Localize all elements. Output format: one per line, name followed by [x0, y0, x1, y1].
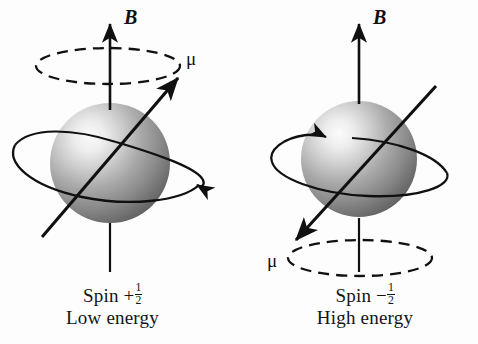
- moment-label-left: μ: [186, 48, 196, 70]
- spin-state-figure: B μ Spin +12 Low energy B μ Spin −12 Hig…: [0, 0, 478, 344]
- caption-spin-prefix-left: Spin +: [83, 285, 135, 306]
- caption-energy-right: High energy: [270, 307, 460, 329]
- caption-spin-value-right: Spin −12: [270, 282, 460, 307]
- spin-fraction-denominator-right: 2: [387, 295, 394, 307]
- field-label-left: B: [124, 6, 137, 29]
- spin-fraction-numerator-left: 1: [135, 282, 142, 295]
- spin-fraction-denominator-left: 2: [135, 295, 142, 307]
- caption-spin-value-left: Spin +12: [20, 282, 205, 307]
- caption-low-energy: Spin +12 Low energy: [20, 282, 205, 329]
- nucleus-sphere-right: [301, 101, 417, 217]
- moment-label-right: μ: [267, 250, 277, 272]
- panel-low-energy: [13, 24, 203, 272]
- spin-fraction-numerator-right: 1: [387, 282, 394, 295]
- field-label-right: B: [373, 6, 386, 29]
- caption-high-energy: Spin −12 High energy: [270, 282, 460, 329]
- caption-energy-left: Low energy: [20, 307, 205, 329]
- panel-high-energy: [271, 24, 447, 276]
- spin-fraction-right: 12: [387, 282, 394, 307]
- caption-spin-prefix-right: Spin −: [335, 285, 387, 306]
- precession-ellipse-dashed-left: [36, 48, 180, 84]
- spin-fraction-left: 12: [135, 282, 142, 307]
